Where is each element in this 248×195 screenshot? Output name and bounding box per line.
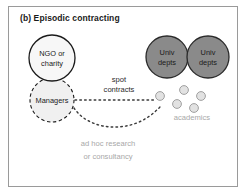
- academic-dot[interactable]: [197, 92, 206, 101]
- ngo-label-line2: charity: [41, 59, 63, 68]
- managers-label: Managers: [36, 96, 69, 105]
- univ-dept-2-circle: [187, 36, 229, 78]
- univ-dept-2-label-line2: depts: [199, 58, 217, 67]
- ad-hoc-line2: or consultancy: [84, 152, 133, 161]
- ad-hoc-line1: ad hoc research: [81, 139, 135, 148]
- ngo-circle: [29, 35, 75, 81]
- academics-cluster: [156, 86, 206, 113]
- node-univ-dept-2[interactable]: Univ depts: [187, 36, 229, 78]
- univ-dept-1-circle: [146, 36, 188, 78]
- academic-dot[interactable]: [190, 104, 199, 113]
- academics-label: academics: [174, 113, 210, 122]
- spot-contracts-line1: spot: [112, 75, 127, 84]
- ad-hoc-label: ad hoc research or consultancy: [81, 139, 135, 161]
- academic-dot[interactable]: [180, 86, 189, 95]
- spot-contracts-label: spot contracts: [104, 75, 135, 94]
- node-univ-dept-1[interactable]: Univ depts: [146, 36, 188, 78]
- academic-dot[interactable]: [173, 100, 182, 109]
- univ-dept-1-label-line1: Univ: [160, 48, 175, 57]
- diagram-canvas: Managers NGO or charity Univ depts Univ …: [0, 0, 248, 195]
- node-managers[interactable]: Managers: [30, 78, 74, 122]
- node-ngo-charity[interactable]: NGO or charity: [29, 35, 75, 81]
- ngo-label-line1: NGO or: [39, 49, 65, 58]
- ad-hoc-connector: [74, 107, 160, 127]
- academic-dot[interactable]: [156, 92, 165, 101]
- figure-root: (b) Episodic contracting Managers NGO or…: [0, 0, 248, 195]
- univ-dept-2-label-line1: Univ: [201, 48, 216, 57]
- spot-contracts-line2: contracts: [104, 85, 135, 94]
- univ-dept-1-label-line2: depts: [158, 58, 176, 67]
